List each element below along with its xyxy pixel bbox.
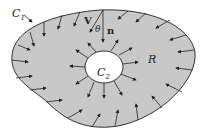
c1-pointer [24, 15, 32, 22]
label-r: R [148, 54, 156, 65]
label-v: V [84, 16, 92, 26]
label-c1: C1 [12, 8, 25, 22]
label-n: n [107, 26, 114, 36]
label-theta: θ [95, 25, 100, 34]
label-c2: C2 [97, 67, 110, 81]
